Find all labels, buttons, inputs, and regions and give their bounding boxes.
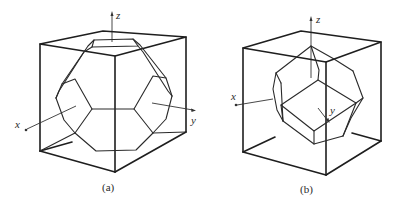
y-arrowhead-icon (191, 109, 196, 113)
x-axis-a: x (14, 106, 76, 131)
figure-a: z (14, 9, 196, 194)
diagram-canvas: z (0, 0, 400, 204)
z-axis-label-a: z (115, 9, 121, 21)
x-axis-b: x (230, 90, 273, 106)
caption-b: (b) (300, 183, 313, 196)
y-axis-label-b: y (329, 104, 335, 116)
caption-a: (a) (102, 181, 115, 194)
figure-b: z (230, 13, 381, 196)
x-arrowhead-icon (25, 129, 28, 132)
z-arrowhead-icon (111, 11, 114, 16)
y-axis-label-a: y (190, 114, 196, 126)
y-axis-a: y (152, 103, 196, 126)
x-arrowhead-icon (235, 104, 238, 107)
z-axis-label-b: z (315, 13, 321, 25)
x-axis-label-a: x (14, 118, 20, 130)
x-axis-label-b: x (230, 90, 236, 102)
z-arrowhead-icon (310, 16, 313, 21)
z-axis-a: z (111, 9, 122, 42)
